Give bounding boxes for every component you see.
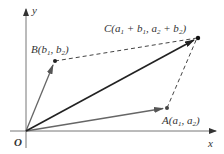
y-axis-label: y (31, 4, 37, 16)
point-a-label: A(a1, a2) (161, 114, 200, 128)
dashed-a-to-c (167, 38, 197, 108)
vector-ob (26, 65, 53, 131)
point-a (165, 106, 169, 110)
vector-diagram: y x O B(b1, b2) C(a1 + b1, a2 + b2) A(a1… (0, 0, 224, 154)
point-b (53, 59, 57, 63)
point-c (196, 36, 200, 40)
x-axis-label: x (207, 137, 213, 149)
point-b-label: B(b1, b2) (31, 43, 69, 57)
point-c-label: C(a1 + b1, a2 + b2) (104, 22, 186, 36)
origin-label: O (14, 136, 22, 148)
